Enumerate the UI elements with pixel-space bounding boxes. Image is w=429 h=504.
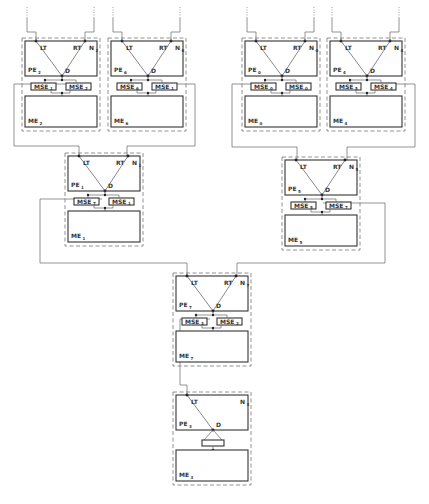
module-n3: LTN3PE3DME3 [173, 392, 251, 485]
lt-label: LT [83, 159, 91, 166]
bus-dot [281, 79, 283, 81]
bus-dot [212, 327, 214, 329]
lt-label: LT [345, 44, 353, 51]
lt-label: LT [300, 163, 308, 170]
d-label: D [285, 67, 290, 74]
rt-input-wire [171, 18, 180, 41]
bus-dot [130, 79, 132, 81]
rt-label: RT [293, 44, 302, 51]
bus-dot [366, 92, 368, 94]
bus-dot [281, 92, 283, 94]
lt-terminal-dot [186, 394, 189, 397]
tree-diagram: LTRTN2PE2DMSE1MSE2ME2LTRTN6PE6DMSE6MSE1M… [0, 0, 429, 504]
mse-single-box [202, 440, 224, 446]
rt-label: RT [333, 163, 342, 170]
lt-input-wire [332, 18, 341, 41]
bus-dot [321, 198, 323, 200]
bus-dot [304, 198, 306, 200]
bus-dot [321, 211, 323, 213]
bus-dot [61, 79, 63, 81]
bus-dot [349, 79, 351, 81]
rt-label: RT [159, 44, 168, 51]
lt-label: LT [126, 44, 134, 51]
rt-terminal-dot [127, 155, 130, 158]
root-link [204, 430, 222, 440]
rt-label: RT [378, 44, 387, 51]
lt-terminal-dot [186, 275, 189, 278]
rt-input-wire [390, 18, 399, 41]
d-label: D [216, 421, 221, 428]
bus-dot [195, 314, 197, 316]
d-label: D [108, 182, 113, 189]
lt-label: LT [260, 44, 268, 51]
module-n5: LTRTN5PE5DMSE5MSE7ME5 [282, 157, 360, 250]
bus-dot [264, 79, 266, 81]
rt-label: RT [73, 44, 82, 51]
bus-dot [147, 92, 149, 94]
rt-label: RT [116, 159, 125, 166]
bus-dot [44, 79, 46, 81]
d-label: D [65, 67, 70, 74]
bus-dot [366, 79, 368, 81]
lt-label: LT [191, 279, 199, 286]
lt-input-wire [113, 18, 122, 41]
d-label: D [216, 302, 221, 309]
module-n2: LTRTN2PE2DMSE1MSE2ME2 [22, 6, 100, 131]
rt-input-wire [85, 18, 94, 41]
bus-dot [147, 79, 149, 81]
rt-input-wire [305, 18, 314, 41]
lt-label: LT [40, 44, 48, 51]
rt-label: RT [224, 279, 233, 286]
d-label: D [370, 67, 375, 74]
bus-dot [212, 314, 214, 316]
bus-dot [61, 92, 63, 94]
bus-dot [104, 194, 106, 196]
d-label: D [325, 186, 330, 193]
lt-input-wire [247, 18, 256, 41]
lt-terminal-dot [78, 155, 81, 158]
rt-terminal-dot [344, 159, 347, 162]
lt-label: LT [191, 398, 199, 405]
module-n0: LTRTN0PE0DMSE0MSE0ME0 [242, 6, 320, 131]
bus-dot [104, 207, 106, 209]
lt-input-wire [27, 18, 36, 41]
bus-dot [87, 194, 89, 196]
diagram-svg: LTRTN2PE2DMSE1MSE2ME2LTRTN6PE6DMSE6MSE1M… [0, 0, 429, 504]
d-label: D [151, 67, 156, 74]
module-n1: LTRTN1PE1DMSE7MSE1ME1 [65, 153, 143, 246]
rt-terminal-dot [235, 275, 238, 278]
module-n7: LTRTN7PE7DMSE3MSE2ME7 [173, 273, 251, 366]
module-n4: LTRTN4PE4DMSE5MSE4ME4 [327, 6, 405, 131]
module-n6: LTRTN6PE6DMSE6MSE1ME6 [108, 6, 186, 131]
lt-terminal-dot [295, 159, 298, 162]
